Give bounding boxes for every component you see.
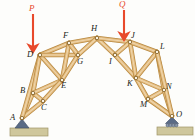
joint-label-e: E (61, 81, 66, 90)
pin-support (15, 119, 29, 128)
truss-joint-l (155, 50, 158, 53)
truss-joint-h (95, 36, 98, 39)
joint-label-f: F (63, 31, 68, 40)
truss-joint-k (134, 76, 137, 79)
truss-joint-j (128, 40, 131, 43)
truss-joint-a (20, 116, 23, 119)
truss-member (148, 90, 164, 99)
truss-diagram-canvas (0, 0, 195, 140)
joint-label-j: J (131, 31, 135, 40)
joint-label-i: I (109, 57, 112, 66)
joint-label-m: M (140, 100, 147, 109)
ground-slab (157, 127, 193, 135)
joint-label-n: N (166, 82, 172, 91)
truss-joint-f (67, 41, 70, 44)
joint-label-c: C (41, 103, 47, 112)
load-label-q: Q (119, 0, 126, 9)
truss-supports-group (10, 117, 193, 136)
truss-member (40, 55, 62, 80)
truss-joint-i (113, 53, 116, 56)
joint-label-l: L (160, 42, 165, 51)
joint-label-a: A (10, 113, 15, 122)
truss-member (130, 42, 157, 52)
truss-member (115, 42, 130, 55)
joint-label-o: O (176, 110, 182, 119)
joint-label-k: K (127, 79, 133, 88)
joint-label-g: G (77, 57, 83, 66)
joint-label-b: B (20, 86, 25, 95)
ground-slab (10, 128, 48, 136)
truss-figure: ABCDEFGHIJKLMNOPQ (0, 0, 195, 140)
truss-joint-b (31, 91, 34, 94)
truss-member (136, 52, 157, 78)
joint-label-h: H (91, 24, 97, 33)
load-label-p: P (29, 4, 35, 13)
truss-joint-o (170, 114, 173, 117)
joint-label-d: D (27, 50, 33, 59)
truss-joint-d (38, 53, 41, 56)
